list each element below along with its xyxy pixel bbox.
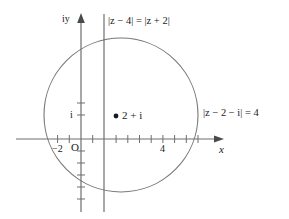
bisector-equation-label: |z − 4| = |z + 2| — [108, 16, 170, 27]
argand-diagram: iy x O −2 4 i |z − 4| = |z + 2| |z − 2 −… — [0, 0, 289, 219]
x-axis-label: x — [219, 144, 224, 155]
x-axis-arrowhead — [214, 135, 224, 142]
y-axis-arrowhead — [77, 13, 85, 23]
y-axis-label: iy — [62, 14, 70, 24]
centre-point-marker — [114, 114, 119, 119]
centre-point-label: 2 + i — [122, 110, 142, 121]
x-tick-label-4: 4 — [160, 144, 165, 154]
x-tick-label-minus-2: −2 — [52, 144, 63, 154]
y-tick-label-i: i — [70, 110, 73, 120]
origin-label: O — [71, 142, 79, 153]
circle-equation-label: |z − 2 − i| = 4 — [203, 108, 259, 119]
circle-locus — [44, 38, 198, 192]
